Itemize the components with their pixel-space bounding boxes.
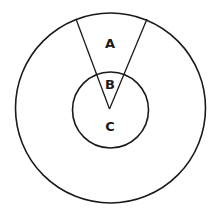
concentric-circles-diagram: A B C [0,0,220,217]
diagram-canvas: A B C [0,0,220,217]
region-label-a: A [105,36,115,51]
sector-right-edge [110,19,148,109]
region-label-c: C [105,119,115,134]
region-label-b: B [105,77,115,92]
sector-left-edge [76,19,110,109]
